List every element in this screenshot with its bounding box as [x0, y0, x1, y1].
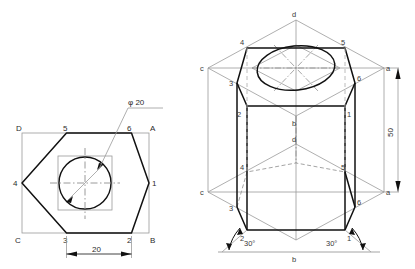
iso-top-label-d: d — [292, 10, 296, 19]
diameter-arrowhead-lower — [66, 196, 73, 203]
ortho-label-A: A — [150, 124, 156, 133]
iso-top-hex-label-4: 4 — [240, 38, 244, 47]
width-dimension-label: 20 — [92, 245, 101, 254]
iso-bottom-hex-label-4: 4 — [240, 163, 244, 172]
iso-bottom-label-b: b — [292, 255, 296, 264]
diameter-arrow-line — [67, 165, 103, 201]
angle-label-left: 30° — [244, 239, 255, 248]
iso-bottom-hex-label-2: 2 — [240, 234, 244, 243]
ortho-label-B: B — [150, 236, 155, 245]
ortho-label-C: C — [15, 236, 21, 245]
ortho-label-5: 5 — [63, 124, 68, 133]
iso-bottom-hex-edge-6-1 — [345, 172, 355, 207]
iso-bottom-hex-label-1: 1 — [347, 234, 351, 243]
ortho-label-D: D — [16, 124, 22, 133]
iso-top-hex-label-1: 1 — [347, 110, 351, 119]
height-dim-arrow-bottom — [395, 181, 400, 192]
iso-top-label-b: b — [292, 119, 296, 128]
iso-top-hex-label-2: 2 — [237, 110, 241, 119]
ortho-view-group: φ 20 D A B C 1 2 3 4 5 6 20 — [13, 98, 163, 258]
height-dimension-label: 50 — [386, 128, 395, 137]
iso-bottom-label-c: c — [200, 188, 204, 197]
diameter-label: φ 20 — [128, 98, 145, 107]
iso-view-group: 30° 30° 50 d c a b d c a b 4 5 6 3 2 1 4… — [200, 10, 401, 264]
ortho-label-3: 3 — [63, 236, 68, 245]
iso-angle-arrow-left-bottom — [226, 243, 232, 250]
ortho-label-4: 4 — [13, 179, 18, 188]
iso-bottom-hex-label-6: 6 — [357, 198, 361, 207]
iso-bottom-label-d: d — [292, 135, 296, 144]
dim-arrow-left — [67, 251, 78, 256]
angle-label-right: 30° — [326, 239, 337, 248]
height-dim-arrow-top — [395, 68, 400, 79]
diameter-leader-line — [99, 108, 128, 169]
iso-bottom-hex-label-5: 5 — [341, 163, 345, 172]
iso-top-label-a: a — [386, 64, 391, 73]
iso-bottom-hexagon-hidden-edges — [237, 163, 345, 207]
iso-top-hex-label-5: 5 — [341, 38, 345, 47]
iso-top-hex-label-6: 6 — [357, 74, 361, 83]
ortho-label-6: 6 — [127, 124, 132, 133]
ortho-label-1: 1 — [152, 179, 157, 188]
iso-bottom-label-a: a — [386, 188, 391, 197]
iso-top-label-c: c — [200, 64, 204, 73]
iso-bottom-hex-label-3: 3 — [229, 204, 233, 213]
engineering-drawing-canvas: φ 20 D A B C 1 2 3 4 5 6 20 — [0, 0, 415, 269]
dim-arrow-right — [121, 251, 132, 256]
iso-top-hex-label-3: 3 — [229, 79, 233, 88]
